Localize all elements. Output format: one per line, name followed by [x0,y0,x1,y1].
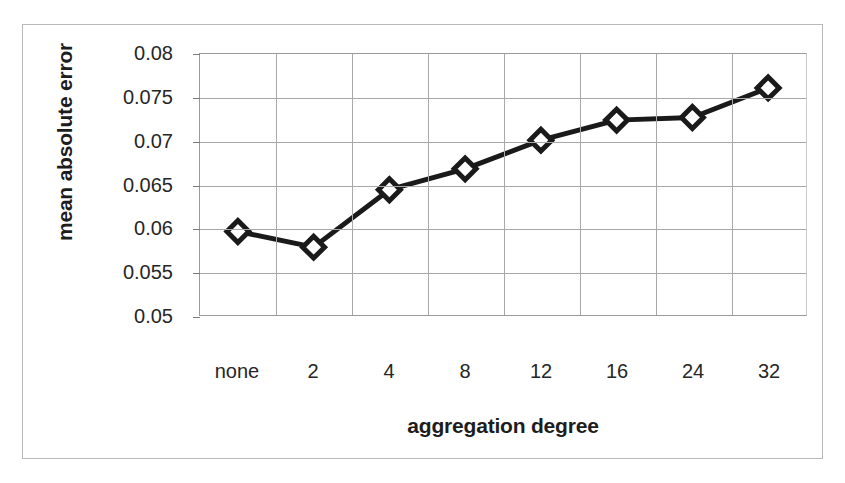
y-axis-title: mean absolute error [53,12,77,272]
data-series-layer [200,54,806,315]
y-axis-tick-label: 0.05 [99,306,173,326]
horizontal-gridline [200,186,806,187]
x-axis-tick-label: 2 [307,361,318,381]
x-axis-tick-label: 16 [606,361,628,381]
vertical-gridline [732,54,733,315]
x-axis-title: aggregation degree [199,414,807,438]
horizontal-gridline [200,229,806,230]
x-axis-tick-label: 4 [383,361,394,381]
data-point-marker [681,107,703,129]
y-axis-tick-label: 0.075 [99,87,173,107]
y-axis-tick-mark [193,229,200,230]
data-point-marker [606,109,628,131]
y-axis-tick-label: 0.06 [99,218,173,238]
vertical-gridline [352,54,353,315]
y-axis-tick-label-group: 0.080.0750.070.0650.060.0550.05 [99,53,173,316]
x-axis-tick-label: 24 [682,361,704,381]
y-axis-tick-mark [193,317,200,318]
x-axis-tick-label: none [215,361,260,381]
y-axis-tick-label: 0.055 [99,262,173,282]
vertical-gridline [276,54,277,315]
vertical-gridline [428,54,429,315]
vertical-gridline [656,54,657,315]
y-axis-tick-mark [193,54,200,55]
vertical-gridline [580,54,581,315]
horizontal-gridline [200,142,806,143]
y-axis-tick-label: 0.07 [99,131,173,151]
y-axis-tick-mark [193,273,200,274]
x-axis-tick-label: 8 [459,361,470,381]
data-point-marker [757,77,779,99]
y-axis-tick-mark [193,186,200,187]
data-point-marker [530,129,552,151]
y-axis-tick-mark [193,98,200,99]
vertical-gridline [504,54,505,315]
chart-figure-frame: mean absolute error 0.080.0750.070.0650.… [22,24,823,459]
data-point-marker [454,158,476,180]
horizontal-gridline [200,273,806,274]
y-axis-tick-label: 0.08 [99,43,173,63]
y-axis-tick-label: 0.065 [99,175,173,195]
horizontal-gridline [200,98,806,99]
plot-area [199,53,807,316]
x-axis-tick-label-group: none24812162432 [199,361,807,391]
y-axis-tick-mark [193,142,200,143]
x-axis-tick-label: 12 [530,361,552,381]
data-point-marker [227,221,249,243]
x-axis-tick-label: 32 [758,361,780,381]
